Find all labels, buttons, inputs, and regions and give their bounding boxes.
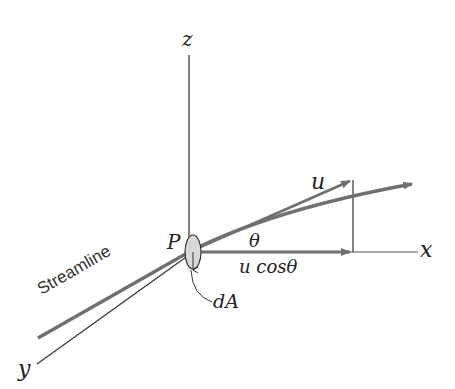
diagram-canvas xyxy=(0,0,455,389)
x-axis-label: x xyxy=(420,237,432,262)
component-label: u cosθ xyxy=(239,256,297,277)
velocity-label: u xyxy=(311,169,325,194)
point-label: P xyxy=(167,230,180,254)
area-label: dA xyxy=(213,290,239,312)
z-axis-label: z xyxy=(182,27,193,51)
y-axis-label: y xyxy=(18,356,30,381)
angle-label: θ xyxy=(249,230,260,251)
area-leader xyxy=(191,270,212,302)
velocity-arrow xyxy=(189,181,350,252)
